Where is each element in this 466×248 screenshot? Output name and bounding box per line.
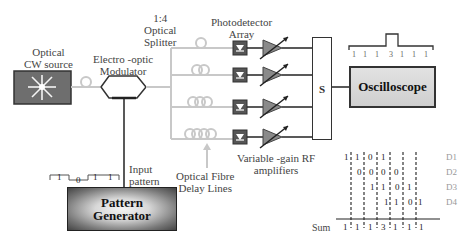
photodetector-array: [233, 37, 312, 148]
timing-diagram: [336, 152, 440, 228]
delay-lines-label: Optical Fibre Delay Lines: [176, 170, 234, 194]
cw-source-label: Optical CW source: [24, 46, 73, 70]
splitter-label: 1:4 Optical Splitter: [144, 12, 176, 48]
output-waveform: [349, 34, 433, 50]
oscilloscope-block: Oscilloscope: [349, 66, 436, 108]
delay-lines-arrow: [203, 143, 211, 168]
input-bit: 0: [76, 175, 81, 185]
pattern-generator-block: Pattern Generator: [67, 187, 177, 231]
cw-source-icon: [14, 71, 71, 104]
amplifiers-label: Variable -gain RF amplifiers: [237, 152, 315, 176]
input-bit: 1: [57, 172, 62, 182]
photodetector-label: Photodetector Array: [211, 16, 272, 40]
sum-block: S: [312, 37, 332, 140]
fibre-loop-icon: [81, 77, 91, 87]
input-bit: 1: [93, 172, 98, 182]
input-pattern-label: Input pattern: [129, 163, 160, 187]
input-bit: 1: [108, 172, 113, 182]
fibre-delay-lines: [171, 38, 233, 139]
modulator-icon: [101, 76, 146, 98]
modulator-label: Electro -optic Modulator: [93, 53, 153, 77]
